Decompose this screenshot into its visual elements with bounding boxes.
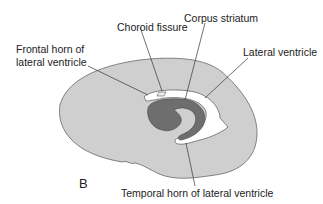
panel-label: B	[79, 176, 88, 191]
label-lateral-ventricle: Lateral ventricle	[243, 46, 317, 58]
label-frontal-horn-line1: Frontal horn of	[16, 43, 84, 55]
brain-ventricle-diagram: Choroid fissure Corpus striatum Frontal …	[0, 0, 323, 204]
label-corpus-striatum: Corpus striatum	[184, 12, 258, 24]
label-temporal-horn: Temporal horn of lateral ventricle	[121, 187, 273, 199]
label-frontal-horn-line2: lateral ventricle	[16, 56, 87, 68]
label-choroid-fissure: Choroid fissure	[117, 21, 188, 33]
